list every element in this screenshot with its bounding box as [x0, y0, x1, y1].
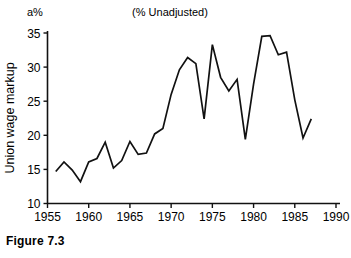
y-tick-label: 20 [27, 129, 41, 143]
figure-caption: Figure 7.3 [6, 234, 65, 248]
y-axis-unit-label: a% [27, 6, 43, 18]
y-tick-label: 25 [27, 95, 41, 109]
y-tick-label: 35 [27, 27, 41, 41]
x-tick-label: 1970 [158, 210, 185, 224]
x-tick-label: 1955 [34, 210, 61, 224]
x-tick-label: 1975 [199, 210, 226, 224]
x-tick-label: 1990 [323, 210, 350, 224]
union-wage-markup-line-chart: a% (% Unadjusted) Union wage markup 1015… [0, 0, 351, 258]
y-tick-label: 15 [27, 163, 41, 177]
x-tick-label: 1980 [240, 210, 267, 224]
y-tick-label: 30 [27, 61, 41, 75]
chart-title: (% Unadjusted) [132, 6, 208, 18]
y-axis-title: Union wage markup [3, 62, 17, 173]
figure-container: a% (% Unadjusted) Union wage markup 1015… [0, 0, 351, 258]
x-tick-label: 1985 [281, 210, 308, 224]
x-tick-label: 1960 [75, 210, 102, 224]
x-tick-label: 1965 [117, 210, 144, 224]
